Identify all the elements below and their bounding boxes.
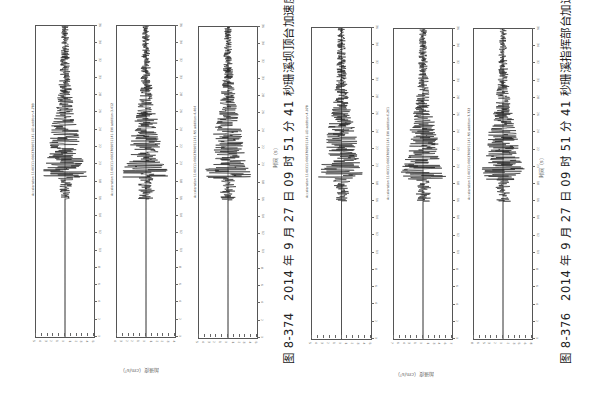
tick-mark (451, 335, 452, 338)
tick-mark (371, 234, 374, 235)
tick-mark (341, 335, 342, 338)
tick-label: -8 (529, 342, 533, 345)
tick-mark (175, 25, 178, 26)
waveform-plot (474, 29, 532, 339)
tick-label: -3 (242, 341, 246, 344)
tick-mark (175, 232, 178, 233)
tick-mark (257, 199, 260, 200)
tick-mark (393, 335, 394, 338)
tick-mark (519, 335, 520, 338)
tick-mark (473, 335, 474, 338)
tick-label: 8 (470, 342, 474, 344)
time-axis-ticks: 024681012141618202224262830323436 (452, 28, 458, 338)
tick-mark (445, 335, 446, 338)
tick-mark (175, 42, 178, 43)
tick-mark (371, 62, 374, 63)
tick-label: -3 (166, 340, 170, 343)
tick-label: 5 (32, 340, 36, 342)
tick-label: 32 (98, 58, 102, 62)
tick-mark (227, 334, 228, 337)
tick-label: 36 (536, 26, 540, 30)
tick-label: 0 (337, 342, 341, 344)
tick-label: 0 (499, 342, 503, 344)
amplitude-axis-ticks: 543210-1-2-3-4-5 (198, 334, 256, 348)
tick-mark (175, 215, 178, 216)
tick-label: -2 (154, 340, 158, 343)
tick-mark (175, 250, 178, 251)
tick-mark (371, 183, 374, 184)
tick-mark (416, 335, 417, 338)
tick-label: 4 (374, 302, 378, 304)
waveform-plot (199, 27, 257, 338)
tick-label: 26 (98, 109, 102, 113)
tick-label: 24 (261, 128, 265, 132)
tick-mark (370, 335, 371, 338)
panel-annotation: Acceleration 1140311-6002709051141-UD ad… (305, 105, 309, 198)
tick-label: -3 (356, 342, 360, 345)
tick-label: -1 (230, 341, 234, 344)
tick-mark (168, 333, 169, 336)
tick-mark (352, 335, 353, 338)
waveform-panel-ud (311, 27, 372, 340)
tick-mark (485, 335, 486, 338)
tick-label: 10 (179, 248, 183, 252)
tick-label: 5 (195, 341, 199, 343)
tick-label: 4 (314, 342, 318, 344)
tick-mark (371, 131, 374, 132)
tick-mark (151, 333, 152, 336)
tick-label: 12 (98, 230, 102, 234)
tick-mark (257, 95, 260, 96)
y-axis-label: 加速度（cm/s²） (395, 372, 434, 379)
tick-label: 32 (536, 61, 540, 65)
tick-label: 4 (402, 342, 406, 344)
tick-mark (81, 333, 82, 336)
tick-mark (87, 333, 88, 336)
tick-mark (371, 148, 374, 149)
tick-mark (175, 181, 178, 182)
tick-label: 2 (326, 342, 330, 344)
tick-mark (531, 335, 532, 338)
tick-mark (174, 333, 175, 336)
time-axis-ticks: 024681012141618202224262830323436 (94, 25, 100, 336)
tick-mark (175, 198, 178, 199)
tick-mark (311, 335, 312, 338)
tick-label: 1 (218, 341, 222, 343)
tick-label: 18 (375, 181, 379, 185)
tick-label: 10 (456, 250, 460, 254)
tick-mark (94, 25, 97, 26)
tick-label: 6 (260, 284, 264, 286)
tick-mark (94, 232, 97, 233)
tick-label: -3 (431, 342, 435, 345)
tick-label: 12 (375, 232, 379, 236)
tick-mark (257, 216, 260, 217)
tick-mark (496, 335, 497, 338)
tick-mark (233, 334, 234, 337)
tick-label: 0 (142, 340, 146, 342)
tick-mark (452, 131, 455, 132)
tick-mark (371, 252, 374, 253)
tick-label: 4 (178, 300, 182, 302)
tick-mark (371, 165, 374, 166)
tick-mark (502, 335, 503, 338)
tick-label: 36 (261, 24, 265, 28)
tick-mark (257, 251, 260, 252)
tick-label: 4 (201, 341, 205, 343)
tick-label: 10 (98, 248, 102, 252)
tick-mark (145, 333, 146, 336)
tick-label: 3 (407, 342, 411, 344)
tick-label: 4 (113, 340, 117, 342)
waveform-plot (312, 28, 371, 339)
tick-label: -2 (505, 342, 509, 345)
tick-mark (76, 333, 77, 336)
tick-mark (358, 335, 359, 338)
tick-mark (317, 335, 318, 338)
tick-label: 4 (455, 303, 459, 305)
tick-label: 18 (261, 180, 265, 184)
tick-label: 2 (178, 318, 182, 320)
tick-label: -1 (344, 342, 348, 345)
tick-label: 10 (375, 250, 379, 254)
tick-label: 10 (261, 249, 265, 253)
tick-label: 28 (375, 94, 379, 98)
tick-label: 20 (261, 162, 265, 166)
tick-mark (428, 335, 429, 338)
